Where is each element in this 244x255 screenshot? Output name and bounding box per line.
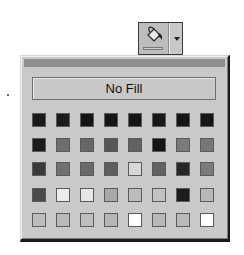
color-swatch[interactable] (200, 138, 214, 152)
color-swatch[interactable] (56, 213, 70, 227)
color-swatch[interactable] (152, 162, 166, 176)
color-swatch[interactable] (56, 138, 70, 152)
color-swatch[interactable] (128, 162, 142, 176)
color-swatch[interactable] (176, 113, 190, 127)
color-swatch[interactable] (32, 188, 46, 202)
color-swatch[interactable] (32, 138, 46, 152)
color-swatch[interactable] (152, 188, 166, 202)
color-swatch[interactable] (104, 113, 118, 127)
color-swatch[interactable] (80, 113, 94, 127)
color-swatch[interactable] (104, 213, 118, 227)
bullet-dot (7, 94, 9, 96)
fill-color-button[interactable] (138, 22, 183, 55)
no-fill-button[interactable]: No Fill (32, 77, 216, 100)
color-swatch[interactable] (200, 213, 214, 227)
color-swatch[interactable] (128, 213, 142, 227)
color-swatch[interactable] (200, 113, 214, 127)
fill-color-dropdown-button[interactable] (169, 23, 182, 54)
color-swatch[interactable] (104, 138, 118, 152)
color-swatch[interactable] (56, 162, 70, 176)
color-swatch[interactable] (200, 188, 214, 202)
color-swatch[interactable] (200, 162, 214, 176)
paint-bucket-icon (143, 26, 165, 46)
popup-drag-handle[interactable] (24, 59, 225, 67)
color-swatch[interactable] (56, 113, 70, 127)
fill-color-indicator (143, 47, 163, 50)
color-swatch[interactable] (32, 113, 46, 127)
color-swatch[interactable] (80, 162, 94, 176)
color-swatch[interactable] (176, 188, 190, 202)
color-swatch[interactable] (104, 188, 118, 202)
fill-color-apply-button[interactable] (139, 23, 169, 54)
color-swatch[interactable] (80, 138, 94, 152)
color-swatch[interactable] (80, 213, 94, 227)
color-swatch[interactable] (32, 213, 46, 227)
color-swatch[interactable] (128, 138, 142, 152)
color-swatch[interactable] (152, 113, 166, 127)
color-swatch[interactable] (80, 188, 94, 202)
chevron-down-icon (174, 37, 180, 41)
fill-color-palette-popup: No Fill (20, 55, 230, 242)
color-swatch[interactable] (176, 138, 190, 152)
color-swatch[interactable] (56, 188, 70, 202)
color-swatch[interactable] (104, 162, 118, 176)
color-swatch[interactable] (128, 188, 142, 202)
color-swatch[interactable] (32, 162, 46, 176)
color-swatch[interactable] (152, 213, 166, 227)
color-swatch[interactable] (176, 213, 190, 227)
color-swatch[interactable] (128, 113, 142, 127)
color-swatch[interactable] (176, 162, 190, 176)
color-swatch[interactable] (152, 138, 166, 152)
